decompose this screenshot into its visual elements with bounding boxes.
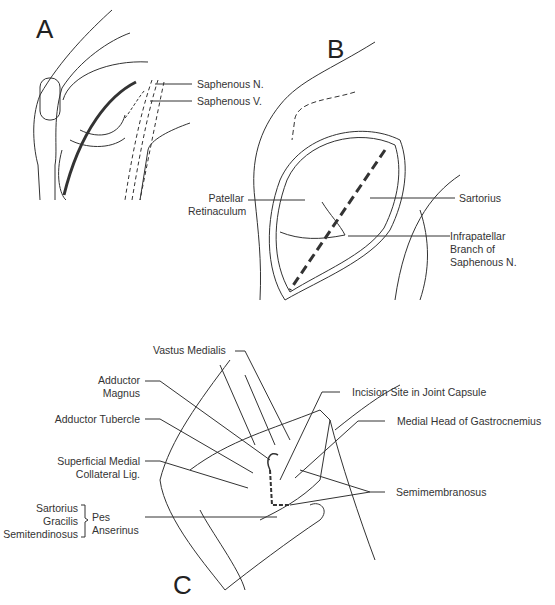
label-medial-gastrocnemius: Medial Head of Gastrocnemius: [397, 415, 541, 428]
panel-a-drawing: [34, 10, 192, 200]
label-line: Anserinus: [92, 524, 139, 537]
label-adductor-magnus: Adductor Magnus: [60, 374, 140, 400]
label-superficial-mcl: Superficial Medial Collateral Lig.: [30, 455, 140, 481]
label-pes-anserinus: Pes Anserinus: [92, 511, 139, 537]
label-line: Adductor: [60, 374, 140, 387]
label-saphenous-n: Saphenous N.: [197, 78, 264, 91]
label-line: Saphenous N.: [450, 256, 517, 269]
label-line: Collateral Lig.: [30, 468, 140, 481]
panel-letter-c: C: [173, 572, 192, 598]
label-sartorius-b: Sartorius: [459, 192, 501, 205]
label-line: Patellar: [188, 192, 244, 205]
label-line: Gracilis: [0, 515, 78, 528]
panel-letter-b: B: [327, 36, 344, 62]
label-line: Semitendinosus: [0, 528, 78, 541]
label-vastus-medialis: Vastus Medialis: [153, 344, 226, 357]
label-pes-muscles: Sartorius Gracilis Semitendinosus: [0, 502, 78, 541]
label-line: Magnus: [60, 387, 140, 400]
label-line: Sartorius: [0, 502, 78, 515]
label-infrapatellar-branch: Infrapatellar Branch of Saphenous N.: [450, 230, 517, 269]
label-line: Infrapatellar: [450, 230, 517, 243]
label-line: Pes: [92, 511, 139, 524]
label-semimembranosus: Semimembranosus: [396, 486, 486, 499]
label-line: Superficial Medial: [30, 455, 140, 468]
label-line: Branch of: [450, 243, 517, 256]
label-line: Retinaculum: [188, 205, 244, 218]
label-incision-site: Incision Site in Joint Capsule: [352, 386, 486, 399]
panel-letter-a: A: [36, 16, 53, 42]
label-saphenous-v: Saphenous V.: [197, 95, 262, 108]
panel-b-drawing: [248, 42, 460, 300]
label-patellar-retinaculum: Patellar Retinaculum: [188, 192, 244, 218]
bracket: [81, 505, 88, 537]
figure-artwork: [0, 0, 555, 605]
label-adductor-tubercle: Adductor Tubercle: [30, 413, 140, 426]
